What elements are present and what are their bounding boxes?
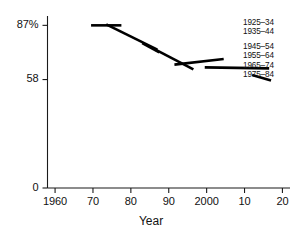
legend-entry: 1935–44: [243, 27, 301, 36]
chart-container: 05887% 196070809020001020 Year 1925–3419…: [0, 0, 302, 238]
legend-entry: 1955–64: [243, 51, 301, 60]
x-tick-label: 20: [259, 195, 302, 207]
x-axis-title: Year: [0, 214, 302, 228]
series-line-1955-64b: [174, 59, 223, 65]
legend-entry: 1945–54: [243, 42, 301, 51]
legend-entry: 1965–74: [243, 61, 301, 70]
legend-entry: 1975–84: [243, 70, 301, 79]
legend: 1925–341935–441945–541955–641965–741975–…: [243, 18, 301, 79]
series-line-1955-64: [155, 50, 193, 70]
y-tick-label: 87%: [0, 18, 39, 30]
legend-entry: 1925–34: [243, 18, 301, 27]
y-tick-label: 58: [0, 72, 39, 84]
x-axis-ticks: [55, 188, 282, 193]
y-axis-ticks: [43, 25, 48, 188]
y-tick-label: 0: [0, 181, 39, 193]
